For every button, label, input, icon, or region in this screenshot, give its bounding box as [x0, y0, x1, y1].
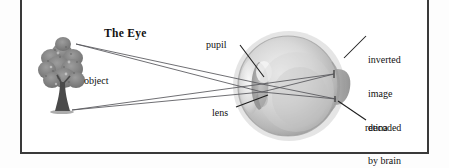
label-inverted-line-2: image	[368, 88, 401, 99]
tree-object-illustration	[38, 37, 85, 114]
leader-inverted-image	[344, 36, 366, 58]
label-inverted-line-1: inverted	[368, 54, 401, 65]
label-object: object	[84, 75, 108, 86]
label-inverted-image: inverted image decoded by brain	[368, 32, 401, 168]
figure-container: The Eye object pupil lens retina inverte…	[0, 0, 449, 168]
label-lens: lens	[212, 107, 228, 118]
figure-title: The Eye	[104, 27, 147, 40]
label-inverted-line-3: decoded	[368, 122, 401, 133]
leader-retina	[338, 101, 366, 120]
eyeball-illustration	[233, 31, 350, 141]
label-inverted-line-4: by brain	[368, 155, 401, 166]
label-pupil: pupil	[206, 39, 227, 50]
